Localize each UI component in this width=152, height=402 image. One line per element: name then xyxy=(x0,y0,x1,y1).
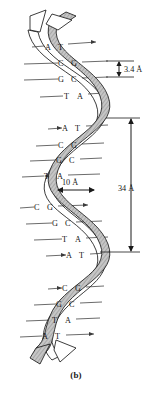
base-pair-label: C xyxy=(65,219,71,228)
dimension-diameter-10-angstrom: 10 Å xyxy=(57,178,95,193)
helix-bottom-cap-open xyxy=(54,340,76,362)
base-pair-label: C xyxy=(69,156,75,165)
base-pair-label: T xyxy=(44,172,49,181)
figure-caption: (b) xyxy=(0,370,152,380)
base-pair-label: T xyxy=(64,92,69,101)
base-pair-label: C xyxy=(71,75,77,84)
base-pair-label: A xyxy=(77,92,83,101)
base-pair-label: G xyxy=(47,203,53,212)
diameter-arrowhead-right xyxy=(89,187,95,193)
pitch-arrowhead-up xyxy=(128,118,134,124)
pitch-dimension-label: 34 Å xyxy=(118,184,134,193)
base-pair-label: T xyxy=(79,251,84,260)
base-pair-label: G xyxy=(56,156,62,165)
base-pair-label: T xyxy=(55,332,60,341)
base-pair-label: G xyxy=(75,284,81,293)
base-pair-label: G xyxy=(71,141,77,150)
diameter-dimension-label: 10 Å xyxy=(62,178,78,187)
base-pair-label: T xyxy=(52,316,57,325)
dimension-pitch-34-angstrom: 34 Å xyxy=(100,118,140,252)
base-pair-label: T xyxy=(75,124,80,133)
base-pair-label: C xyxy=(34,203,40,212)
base-pair-label: A xyxy=(66,251,72,260)
base-pair-label: A xyxy=(62,124,68,133)
base-pair-label: A xyxy=(42,332,48,341)
base-pair-label: G xyxy=(71,59,77,68)
base-pair-label: A xyxy=(65,316,71,325)
rise-arrowhead-up xyxy=(116,61,121,66)
base-pair-label: G xyxy=(56,300,62,309)
rise-arrowhead-down xyxy=(116,72,121,77)
dna-double-helix-figure: A T C G G C T A A T C G G C T A C G G C xyxy=(0,0,152,402)
base-pair-label: T xyxy=(58,43,63,52)
base-pair-label: C xyxy=(69,300,75,309)
pitch-arrowhead-down xyxy=(128,246,134,252)
base-pair-label: C xyxy=(62,284,68,293)
rise-dimension-label: 3.4 Å xyxy=(124,65,142,74)
base-pair-label: C xyxy=(58,59,64,68)
base-pair-label: G xyxy=(58,75,64,84)
base-pair-label: G xyxy=(52,219,58,228)
base-pair-label: A xyxy=(75,235,81,244)
dimension-rise-3-4-angstrom: 3.4 Å xyxy=(106,61,142,77)
base-pair-label: C xyxy=(58,141,64,150)
base-pair-label: T xyxy=(62,235,67,244)
base-pair-label: A xyxy=(45,43,51,52)
dna-helix-svg: A T C G G C T A A T C G G C T A C G G C xyxy=(0,0,152,402)
helix-top-cap-open xyxy=(30,10,46,32)
